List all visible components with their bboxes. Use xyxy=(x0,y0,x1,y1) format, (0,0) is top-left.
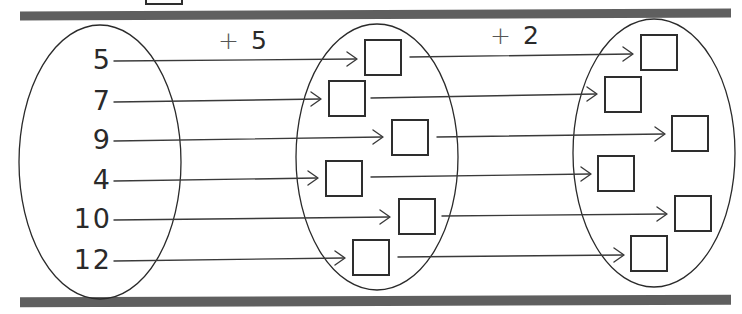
input-number: 7 xyxy=(52,86,112,116)
second-answer-box-2[interactable] xyxy=(604,76,642,113)
input-number: 12 xyxy=(52,245,112,275)
second-answer-box-4[interactable] xyxy=(597,155,635,192)
second-answer-box-5[interactable] xyxy=(674,195,712,232)
second-answer-box-6[interactable] xyxy=(630,235,668,272)
plus-sign: + xyxy=(490,21,515,50)
operation-value: 5 xyxy=(251,26,271,55)
operation-label-plus-5: +5 xyxy=(218,26,271,56)
first-answer-box-4[interactable] xyxy=(325,160,363,197)
input-number: 10 xyxy=(52,204,112,234)
first-answer-box-3[interactable] xyxy=(391,119,429,156)
plus-sign: + xyxy=(218,26,243,55)
second-answer-box-1[interactable] xyxy=(640,34,678,71)
operation-value: 2 xyxy=(523,21,543,50)
input-number: 9 xyxy=(52,125,112,155)
first-answer-box-1[interactable] xyxy=(364,39,402,76)
first-answer-box-5[interactable] xyxy=(398,198,436,235)
operation-label-plus-2: +2 xyxy=(490,21,543,51)
input-number: 4 xyxy=(52,165,112,195)
mapping-diagram: +5 +2 5 7 9 4 10 12 xyxy=(0,0,742,314)
first-answer-box-6[interactable] xyxy=(352,239,390,276)
second-answer-box-3[interactable] xyxy=(671,115,709,152)
first-answer-box-2[interactable] xyxy=(328,80,366,117)
input-number: 5 xyxy=(52,45,112,75)
